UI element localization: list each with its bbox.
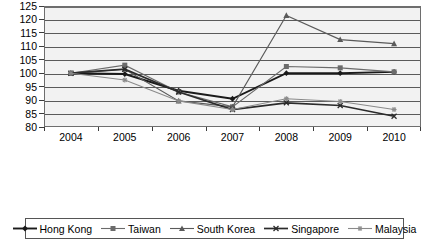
series-layer [44, 6, 421, 127]
x-tick-mark-3 [206, 127, 207, 131]
marker-star [392, 107, 397, 112]
y-tick-label-115: 115 [20, 28, 37, 39]
marker-star [68, 71, 73, 76]
x-tick-label-2004: 2004 [59, 131, 82, 143]
y-tick-label-125: 125 [19, 1, 37, 12]
marker-star [176, 98, 181, 103]
chart-legend: Hong KongTaiwanSouth KoreaSingaporeMalay… [25, 218, 404, 239]
x-tick-mark-4 [259, 127, 260, 131]
x-tick-mark-0 [44, 127, 45, 131]
marker-diamond [337, 70, 343, 76]
legend-swatch-star-icon [348, 223, 372, 234]
marker-star [122, 77, 127, 82]
x-tick-mark-5 [313, 127, 314, 131]
x-tick-mark-6 [367, 127, 368, 131]
x-tick-label-2009: 2009 [329, 131, 352, 143]
x-tick-label-2005: 2005 [113, 131, 136, 143]
marker-star [358, 226, 363, 231]
x-axis: 2004200520062007200820092010 [44, 127, 421, 149]
legend-item-hong-kong[interactable]: Hong Kong [13, 223, 93, 235]
x-tick-label-2010: 2010 [382, 131, 405, 143]
legend-label: Singapore [291, 223, 339, 235]
legend-swatch-diamond-icon [13, 223, 37, 234]
y-tick-label-100: 100 [19, 68, 37, 79]
series-line [71, 72, 394, 99]
legend-item-singapore[interactable]: Singapore [264, 223, 339, 235]
marker-star [230, 107, 235, 112]
legend-label: Malaysia [375, 223, 416, 235]
series-hong-kong [68, 69, 397, 102]
y-tick-label-85: 85 [25, 108, 37, 119]
marker-diamond [22, 226, 28, 232]
legend-swatch-square-icon [101, 223, 125, 234]
marker-diamond [230, 96, 236, 102]
chart-container: 80859095100105110115120125 2004200520062… [0, 0, 427, 245]
x-tick-mark-2 [152, 127, 153, 131]
legend-item-taiwan[interactable]: Taiwan [101, 223, 161, 235]
y-tick-label-95: 95 [25, 81, 37, 92]
legend-item-south-korea[interactable]: South Korea [170, 223, 255, 235]
marker-star [284, 96, 289, 101]
y-axis: 80859095100105110115120125 [0, 0, 44, 133]
x-tick-label-2008: 2008 [275, 131, 298, 143]
legend-label: South Korea [197, 223, 255, 235]
marker-square [284, 64, 289, 69]
y-tick-label-90: 90 [25, 95, 37, 106]
marker-triangle [283, 12, 289, 18]
y-tick-label-110: 110 [20, 41, 37, 52]
legend-label: Hong Kong [40, 223, 93, 235]
y-tick-label-80: 80 [25, 122, 37, 133]
marker-diamond [283, 70, 289, 76]
legend-label: Taiwan [128, 223, 161, 235]
legend-swatch-triangle-icon [170, 223, 194, 234]
x-tick-label-2007: 2007 [221, 131, 244, 143]
y-tick-label-105: 105 [19, 55, 37, 66]
x-tick-mark-end [420, 127, 421, 131]
legend-item-malaysia[interactable]: Malaysia [348, 223, 416, 235]
marker-square [392, 69, 397, 74]
x-tick-mark-1 [98, 127, 99, 131]
x-tick-label-2006: 2006 [167, 131, 190, 143]
series-line [71, 15, 394, 106]
marker-star [338, 99, 343, 104]
series-south-korea [68, 12, 397, 109]
marker-square [111, 226, 116, 231]
marker-square [338, 65, 343, 70]
legend-swatch-x-icon [264, 223, 288, 234]
y-tick-label-120: 120 [19, 14, 37, 25]
